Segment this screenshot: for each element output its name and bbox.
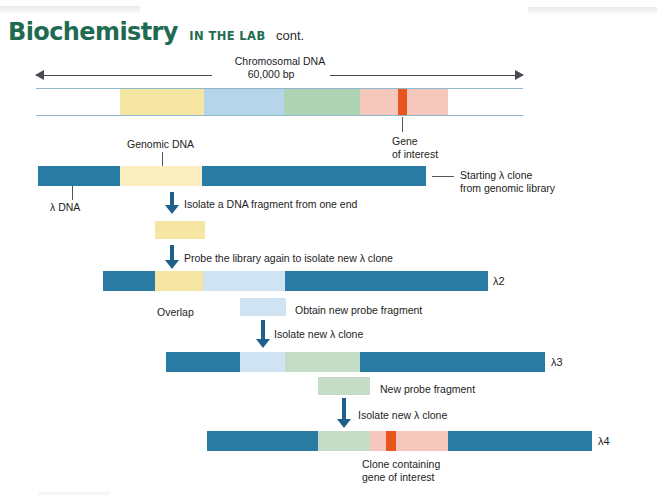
chromosomal-dna-title: Chromosomal DNA bbox=[150, 55, 410, 68]
isolated-fragment-yellow bbox=[155, 221, 205, 239]
lambda2-label: λ2 bbox=[493, 275, 505, 287]
lambda-dna-right-arm bbox=[202, 166, 426, 186]
lambda4-new-pink bbox=[370, 431, 448, 451]
starting-lambda-clone-bar bbox=[38, 166, 426, 186]
lambda2-clone-bar bbox=[103, 271, 488, 291]
probe-fragment-green bbox=[318, 377, 370, 395]
lambda3-label: λ3 bbox=[551, 356, 563, 368]
lambda3-right-arm bbox=[360, 352, 545, 372]
page-continuation: cont. bbox=[276, 28, 304, 43]
chromosome-scale-ruler: 60,000 bp bbox=[36, 70, 523, 82]
chromosome-segment-light-blue bbox=[204, 89, 284, 115]
lambda4-label: λ4 bbox=[598, 435, 610, 447]
genomic-dna-leader-line bbox=[162, 152, 163, 167]
clone-containing-label-line2: gene of interest bbox=[362, 471, 434, 483]
starting-clone-label-line1: Starting λ clone bbox=[460, 169, 532, 181]
genomic-dna-label: Genomic DNA bbox=[127, 138, 194, 151]
page-title: Biochemistry bbox=[8, 18, 178, 46]
step-4-arrow bbox=[337, 398, 351, 430]
chromosome-segment-yellow bbox=[120, 89, 204, 115]
step-2-label: Probe the library again to isolate new λ… bbox=[184, 252, 393, 265]
gene-of-interest-leader-line bbox=[402, 117, 403, 132]
lambda4-right-arm bbox=[448, 431, 592, 451]
lambda-dna-leader-line bbox=[72, 186, 73, 200]
starting-clone-label-line2: from genomic library bbox=[460, 182, 555, 194]
lambda3-new-green bbox=[285, 352, 360, 372]
lambda2-left-arm bbox=[103, 271, 155, 291]
chromosomal-dna-bar bbox=[36, 88, 523, 116]
probe-fragment-light-blue bbox=[240, 298, 286, 316]
page-subtitle: IN THE LAB bbox=[189, 29, 265, 43]
lambda-dna-left-arm bbox=[38, 166, 120, 186]
lambda-dna-label: λ DNA bbox=[50, 201, 80, 214]
gene-of-interest-label: Gene of interest bbox=[392, 135, 438, 160]
gene-of-interest-marker bbox=[398, 89, 407, 115]
ruler-arrow-right bbox=[515, 70, 524, 80]
gene-of-interest-label-line2: of interest bbox=[392, 148, 438, 160]
starting-clone-leader-line bbox=[432, 176, 454, 177]
step-4-label: Isolate new λ clone bbox=[358, 409, 447, 422]
step-3-arrow bbox=[256, 320, 270, 348]
lambda2-new-light-blue bbox=[203, 271, 285, 291]
clone-containing-label-line1: Clone containing bbox=[362, 458, 440, 470]
new-probe-label: New probe fragment bbox=[380, 383, 475, 396]
gene-of-interest-label-line1: Gene bbox=[392, 135, 418, 147]
lambda4-overlap-green bbox=[318, 431, 370, 451]
lambda3-left-arm bbox=[166, 352, 240, 372]
step-3-label: Isolate new λ clone bbox=[274, 328, 363, 341]
clone-containing-gene-label: Clone containing gene of interest bbox=[362, 458, 440, 483]
insert-segment-yellow bbox=[120, 166, 202, 186]
step-1-label: Isolate a DNA fragment from one end bbox=[184, 198, 357, 211]
starting-clone-label: Starting λ clone from genomic library bbox=[460, 169, 555, 194]
obtain-new-probe-label: Obtain new probe fragment bbox=[295, 304, 422, 317]
lambda4-gene-of-interest bbox=[386, 431, 396, 451]
scan-artifact-top-right bbox=[528, 7, 657, 14]
lambda2-overlap-yellow bbox=[155, 271, 203, 291]
overlap-label: Overlap bbox=[157, 306, 194, 319]
step-2-arrow bbox=[165, 245, 179, 269]
page-header: Biochemistry IN THE LAB cont. bbox=[8, 18, 304, 46]
lambda2-right-arm bbox=[285, 271, 488, 291]
scan-artifact-top-left bbox=[0, 6, 140, 13]
step-1-arrow bbox=[165, 192, 179, 214]
lambda4-left-arm bbox=[207, 431, 318, 451]
chromosome-segment-green bbox=[284, 89, 360, 115]
chromosome-length-label: 60,000 bp bbox=[212, 68, 330, 81]
lambda3-overlap-blue bbox=[240, 352, 285, 372]
lambda4-clone-bar bbox=[207, 431, 592, 451]
ruler-arrow-left bbox=[35, 70, 44, 80]
lambda3-clone-bar bbox=[166, 352, 545, 372]
scan-artifact-bottom bbox=[38, 492, 110, 496]
